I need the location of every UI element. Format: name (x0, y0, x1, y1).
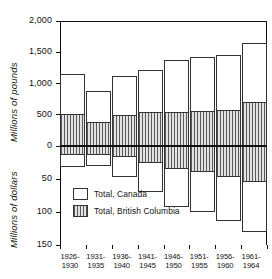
x-axis-label-line: 1961- (238, 252, 264, 261)
bar-segment-bc-dollars (60, 146, 85, 155)
x-tick (164, 245, 165, 249)
bar-segment-bc-dollars (138, 146, 163, 163)
bar-segment-bc-pounds (112, 115, 137, 146)
x-tick (215, 245, 216, 249)
bar-segment-bc-pounds (242, 102, 267, 146)
bar-segment-bc-dollars (242, 146, 267, 182)
y-tick-label-dollars: 100 (0, 206, 52, 216)
bar-group (216, 21, 241, 245)
legend-item-canada: Total, Canada (73, 188, 180, 200)
x-axis-label: 1951-1955 (186, 252, 212, 270)
x-axis-label-line: 1955 (186, 261, 212, 270)
bar-segment-bc-pounds (216, 110, 241, 146)
x-axis-label-line: 1931- (83, 252, 109, 261)
bar-segment-bc-pounds (190, 111, 215, 146)
x-axis-label: 1961-1964 (238, 252, 264, 270)
bar-segment-bc-pounds (86, 122, 111, 146)
x-tick (86, 245, 87, 249)
bar-segment-bc-dollars (112, 146, 137, 157)
zero-baseline (60, 145, 267, 147)
bar-segment-bc-dollars (216, 146, 241, 177)
x-axis-label: 1941-1945 (135, 252, 161, 270)
y-axis-title-pounds: Millions of pounds (8, 62, 19, 142)
y-tick-label-dollars: 150 (0, 239, 52, 249)
x-axis-label: 1956-1960 (212, 252, 238, 270)
x-axis-label-line: 1950 (161, 261, 187, 270)
bar-group (190, 21, 215, 245)
bar-segment-bc-pounds (138, 112, 163, 146)
x-axis-label-line: 1951- (186, 252, 212, 261)
x-axis-label-line: 1930 (57, 261, 83, 270)
bar-segment-bc-pounds (60, 114, 85, 146)
x-axis-label: 1931-1935 (83, 252, 109, 270)
y-tick-label-pounds: 500 (0, 109, 52, 119)
x-tick (60, 245, 61, 249)
x-tick (138, 245, 139, 249)
x-axis-label-line: 1940 (109, 261, 135, 270)
y-tick-label-pounds: 2,000 (0, 15, 52, 25)
x-axis-label-line: 1936- (109, 252, 135, 261)
y-tick-label-pounds: 0 (0, 140, 52, 150)
y-tick-label-pounds: 1,000 (0, 78, 52, 88)
chart-figure: Millions of pounds Millions of dollars 0… (0, 0, 272, 279)
y-tick-label-pounds: 1,500 (0, 46, 52, 56)
x-axis-label: 1946-1950 (161, 252, 187, 270)
x-axis-label: 1936-1940 (109, 252, 135, 270)
x-tick (112, 245, 113, 249)
bar-segment-bc-dollars (190, 146, 215, 172)
x-tick (189, 245, 190, 249)
chart-legend: Total, Canada Total, British Columbia (73, 188, 180, 222)
x-axis-label-line: 1960 (212, 261, 238, 270)
bar-segment-bc-dollars (164, 146, 189, 169)
x-axis-label: 1926-1930 (57, 252, 83, 270)
legend-swatch-bc-icon (73, 205, 88, 217)
bar-segment-bc-pounds (164, 112, 189, 146)
x-axis-label-line: 1935 (83, 261, 109, 270)
x-axis-label-line: 1926- (57, 252, 83, 261)
x-tick (241, 245, 242, 249)
x-axis-label-line: 1956- (212, 252, 238, 261)
x-axis-label-line: 1946- (161, 252, 187, 261)
y-tick-label-dollars: 50 (0, 173, 52, 183)
x-axis-label-line: 1964 (238, 261, 264, 270)
x-axis-label-line: 1945 (135, 261, 161, 270)
legend-label-british-columbia: Total, British Columbia (94, 206, 180, 216)
bar-group (242, 21, 267, 245)
x-axis-label-line: 1941- (135, 252, 161, 261)
x-tick (267, 245, 268, 249)
legend-item-british-columbia: Total, British Columbia (73, 205, 180, 217)
legend-label-canada: Total, Canada (94, 189, 147, 199)
bar-segment-bc-dollars (86, 146, 111, 155)
legend-swatch-canada-icon (73, 188, 88, 200)
